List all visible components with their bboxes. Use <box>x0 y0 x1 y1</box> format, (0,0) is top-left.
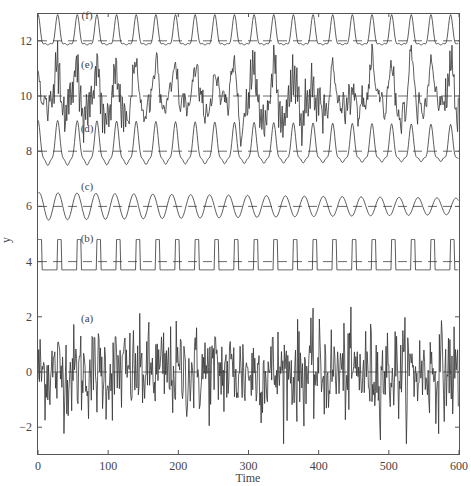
y-tick-label: 2 <box>26 310 32 324</box>
y-tick-label: 8 <box>26 144 32 158</box>
y-tick-label: 10 <box>20 89 32 103</box>
x-tick-label: 0 <box>35 459 41 473</box>
series-label-b: (b) <box>81 232 94 245</box>
series-line-a <box>38 307 458 444</box>
y-tick-label: 4 <box>26 255 32 269</box>
x-tick-label: 500 <box>380 459 398 473</box>
series-lines <box>38 15 458 444</box>
series-line-e <box>38 41 458 147</box>
series-labels: (a)(b)(c)(d)(e)(f) <box>81 9 94 326</box>
x-tick-label: 200 <box>169 459 187 473</box>
y-tick-label: 0 <box>26 365 32 379</box>
plot-frame <box>38 14 460 455</box>
series-label-e: (e) <box>81 58 94 71</box>
x-axis-title: Time <box>236 471 261 485</box>
x-tick-label: 400 <box>310 459 328 473</box>
reference-lines <box>38 41 459 372</box>
y-tick-label: 6 <box>26 199 32 213</box>
y-tick-label: −2 <box>19 420 32 434</box>
x-tick-label: 100 <box>99 459 117 473</box>
series-line-d <box>38 120 458 165</box>
series-label-a: (a) <box>81 312 94 325</box>
y-axis-title: y <box>0 237 13 243</box>
x-tick-label: 600 <box>450 459 468 473</box>
series-label-d: (d) <box>81 122 94 135</box>
series-label-f: (f) <box>82 9 93 22</box>
y-tick-label: 12 <box>20 34 32 48</box>
series-line-b <box>38 240 458 270</box>
series-label-c: (c) <box>81 180 94 193</box>
time-series-chart: 0100200300400500600 −2024681012 (a)(b)(c… <box>0 0 471 486</box>
series-line-f <box>38 15 458 45</box>
